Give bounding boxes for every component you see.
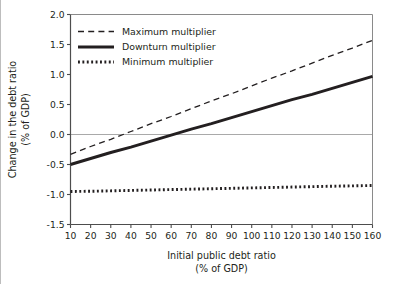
x-tick-label: 70 bbox=[185, 230, 197, 241]
x-tick-label: 20 bbox=[85, 230, 97, 241]
figure-container: 2.01.51.00.50.0-0.5-1.0-1.51020304050607… bbox=[0, 0, 403, 284]
x-tick-label: 30 bbox=[105, 230, 117, 241]
y-tick-label: -0.5 bbox=[47, 159, 65, 170]
figure-left-border bbox=[0, 0, 1, 284]
x-tick-label: 90 bbox=[226, 230, 238, 241]
y-axis-title: Change in the debt ratio bbox=[7, 61, 18, 179]
x-tick-label: 140 bbox=[323, 230, 341, 241]
y-tick-label: 1.5 bbox=[50, 39, 65, 50]
x-tick-label: 40 bbox=[125, 230, 137, 241]
legend-label-solid: Downturn multiplier bbox=[122, 41, 216, 52]
y-tick-label: 1.0 bbox=[50, 69, 65, 80]
line-chart: 2.01.51.00.50.0-0.5-1.0-1.51020304050607… bbox=[0, 0, 403, 284]
y-tick-label: 2.0 bbox=[50, 9, 65, 20]
y-tick-label: -1.0 bbox=[47, 189, 65, 200]
x-tick-label: 80 bbox=[206, 230, 218, 241]
x-tick-label: 120 bbox=[283, 230, 301, 241]
series-line-dashed bbox=[71, 40, 373, 154]
x-tick-label: 50 bbox=[145, 230, 157, 241]
y-tick-label: -1.5 bbox=[47, 219, 65, 230]
y-tick-label: 0.0 bbox=[50, 129, 65, 140]
x-tick-label: 110 bbox=[263, 230, 281, 241]
y-axis-title-sub: (% of GDP) bbox=[20, 93, 31, 146]
x-tick-label: 10 bbox=[65, 230, 77, 241]
legend-label-dotted: Minimum multiplier bbox=[122, 56, 213, 67]
x-tick-label: 160 bbox=[364, 230, 382, 241]
series-line-solid bbox=[71, 76, 373, 164]
y-tick-label: 0.5 bbox=[50, 99, 65, 110]
x-tick-label: 60 bbox=[165, 230, 177, 241]
x-tick-label: 130 bbox=[303, 230, 321, 241]
x-axis-title-sub: (% of GDP) bbox=[195, 263, 248, 274]
legend-label-dashed: Maximum multiplier bbox=[122, 26, 216, 37]
x-axis-title: Initial public debt ratio bbox=[167, 250, 276, 261]
x-tick-label: 150 bbox=[344, 230, 362, 241]
series-line-dotted bbox=[71, 186, 373, 192]
x-tick-label: 100 bbox=[243, 230, 261, 241]
